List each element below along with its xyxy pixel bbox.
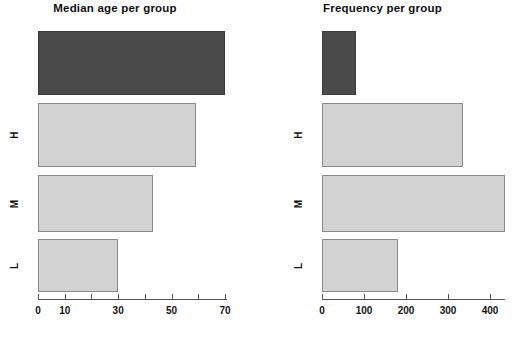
y-axis-label-frequency-L: L bbox=[292, 259, 306, 273]
x-axis-ticklabel-median-age-30: 30 bbox=[98, 305, 138, 316]
bar-median-age-H bbox=[38, 103, 196, 167]
x-axis-tick-frequency-0 bbox=[322, 294, 323, 300]
x-axis-tick-median-age-70 bbox=[225, 294, 226, 300]
x-axis-tick-median-age-20 bbox=[91, 294, 92, 299]
x-axis-ticklabel-frequency-400: 400 bbox=[470, 305, 510, 316]
chart-panel-frequency: Frequency per group HML0100200300400 bbox=[258, 0, 515, 340]
y-axis-label-median-age-L: L bbox=[8, 259, 22, 273]
x-axis-tick-frequency-400 bbox=[490, 294, 491, 300]
chart-title-median-age: Median age per group bbox=[0, 2, 244, 14]
bar-median-age-L bbox=[38, 239, 118, 292]
bar-frequency-top bbox=[322, 31, 356, 95]
x-axis-line-frequency bbox=[322, 299, 505, 300]
bar-median-age-top bbox=[38, 31, 225, 95]
bar-median-age-M bbox=[38, 175, 153, 232]
y-axis-label-frequency-H: H bbox=[292, 128, 306, 142]
y-axis-label-frequency-M: M bbox=[292, 197, 306, 211]
chart-title-frequency: Frequency per group bbox=[254, 2, 511, 14]
x-axis-tick-frequency-300 bbox=[448, 294, 449, 299]
x-axis-tick-median-age-30 bbox=[118, 294, 119, 299]
x-axis-ticklabel-frequency-0: 0 bbox=[302, 305, 342, 316]
x-axis-ticklabel-frequency-300: 300 bbox=[428, 305, 468, 316]
x-axis-tick-frequency-200 bbox=[406, 294, 407, 299]
x-axis-tick-frequency-100 bbox=[364, 294, 365, 299]
x-axis-tick-median-age-0 bbox=[38, 294, 39, 300]
x-axis-tick-median-age-60 bbox=[198, 294, 199, 299]
y-axis-label-median-age-H: H bbox=[8, 128, 22, 142]
bar-frequency-L bbox=[322, 239, 398, 292]
chart-panel-median-age: Median age per group HML010305070 bbox=[0, 0, 258, 340]
y-axis-label-median-age-M: M bbox=[8, 197, 22, 211]
x-axis-tick-median-age-10 bbox=[65, 294, 66, 299]
x-axis-ticklabel-median-age-70: 70 bbox=[205, 305, 245, 316]
x-axis-ticklabel-median-age-10: 10 bbox=[45, 305, 85, 316]
chart-canvas: Median age per group HML010305070 Freque… bbox=[0, 0, 515, 340]
x-axis-ticklabel-frequency-100: 100 bbox=[344, 305, 384, 316]
bar-frequency-H bbox=[322, 103, 463, 167]
x-axis-tick-median-age-40 bbox=[145, 294, 146, 299]
x-axis-tick-median-age-50 bbox=[172, 294, 173, 299]
bar-frequency-M bbox=[322, 175, 505, 232]
x-axis-ticklabel-frequency-200: 200 bbox=[386, 305, 426, 316]
x-axis-line-median-age bbox=[38, 299, 227, 300]
x-axis-ticklabel-median-age-50: 50 bbox=[152, 305, 192, 316]
